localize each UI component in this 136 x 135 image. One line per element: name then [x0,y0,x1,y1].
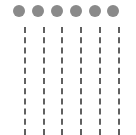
dashed-line-1 [24,27,26,135]
column-guides-diagram [0,0,136,135]
dashed-line-6 [118,27,120,135]
dashed-line-3 [61,27,63,135]
dot-5 [89,5,101,17]
dashed-line-5 [99,27,101,135]
dashed-line-4 [80,27,82,135]
dot-2 [32,5,44,17]
dot-4 [70,5,82,17]
dot-3 [51,5,63,17]
dashed-line-2 [43,27,45,135]
dot-1 [13,5,25,17]
dot-6 [107,5,119,17]
